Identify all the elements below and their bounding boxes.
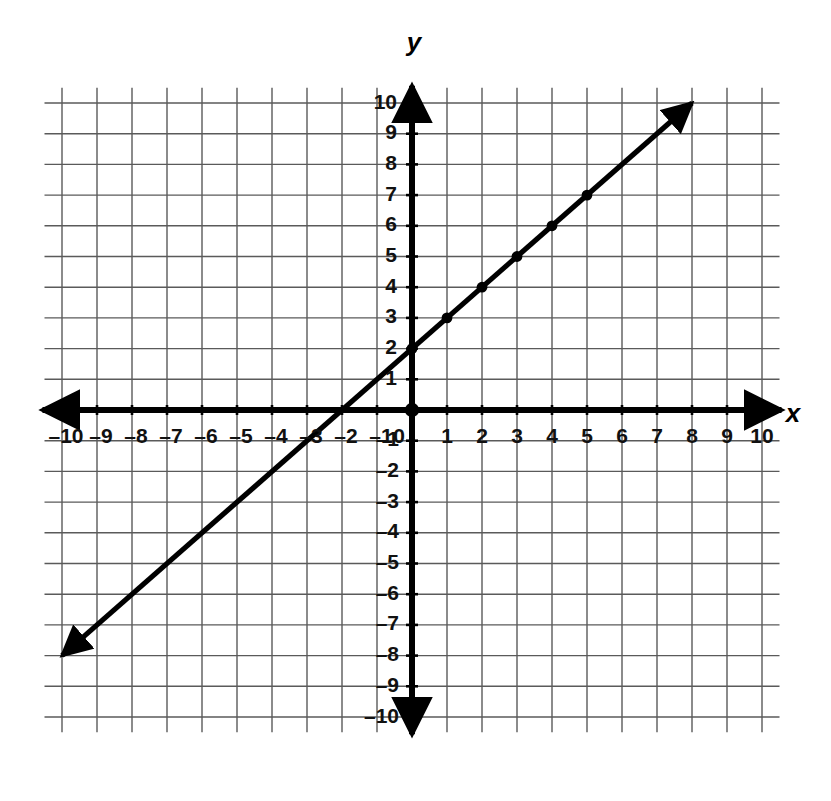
- x-tick-label: 10: [750, 424, 773, 447]
- x-tick-label: 2: [476, 424, 488, 447]
- y-tick-label: –1: [376, 427, 400, 450]
- data-point-marker: [512, 251, 523, 262]
- y-tick-label: 1: [385, 366, 397, 389]
- x-axis-label: x: [784, 398, 802, 428]
- y-tick-label: –5: [376, 550, 400, 573]
- coordinate-plane-svg: –10–9–8–7–6–5–4–3–2–10123456789101234567…: [0, 0, 831, 801]
- data-point-marker: [442, 313, 453, 324]
- x-tick-label: 7: [651, 424, 663, 447]
- y-tick-label: 3: [385, 304, 397, 327]
- y-tick-label: 8: [385, 151, 397, 174]
- x-tick-label: 5: [581, 424, 593, 447]
- x-tick-label: –4: [264, 424, 288, 447]
- y-tick-label: 6: [385, 212, 397, 235]
- y-tick-label: –9: [376, 673, 399, 696]
- data-point-marker: [547, 220, 558, 231]
- x-tick-label: 6: [616, 424, 628, 447]
- x-tick-label: –9: [89, 424, 112, 447]
- y-tick-label: 2: [385, 335, 397, 358]
- x-tick-label: 3: [511, 424, 523, 447]
- x-tick-label: 1: [441, 424, 453, 447]
- x-tick-label: 8: [686, 424, 698, 447]
- y-tick-label: 5: [385, 243, 397, 266]
- y-tick-label: –2: [376, 458, 399, 481]
- graph-canvas: –10–9–8–7–6–5–4–3–2–10123456789101234567…: [0, 0, 831, 801]
- y-tick-label: 10: [374, 90, 397, 113]
- y-tick-label: –7: [376, 611, 399, 634]
- origin-point-marker: [405, 403, 419, 417]
- x-tick-label: 9: [721, 424, 733, 447]
- data-point-marker: [407, 343, 418, 354]
- y-tick-label: –4: [376, 519, 400, 542]
- x-tick-label: –6: [194, 424, 217, 447]
- x-tick-label: –2: [334, 424, 357, 447]
- x-tick-label: –10: [48, 424, 83, 447]
- x-tick-label: –5: [229, 424, 253, 447]
- y-tick-label: 7: [385, 182, 397, 205]
- y-tick-label: –3: [376, 489, 399, 512]
- y-axis-label: y: [405, 27, 423, 57]
- data-point-marker: [477, 282, 488, 293]
- data-point-marker: [582, 190, 593, 201]
- y-tick-label: 9: [385, 120, 397, 143]
- y-tick-label: –10: [364, 704, 399, 727]
- y-tick-label: –8: [376, 642, 400, 665]
- y-tick-label: 4: [385, 274, 397, 297]
- x-tick-label: –7: [159, 424, 182, 447]
- x-tick-label: –8: [124, 424, 148, 447]
- x-tick-label: 4: [546, 424, 558, 447]
- x-tick-label: –3: [299, 424, 322, 447]
- y-tick-label: –6: [376, 581, 399, 604]
- plotted-points: [405, 190, 593, 417]
